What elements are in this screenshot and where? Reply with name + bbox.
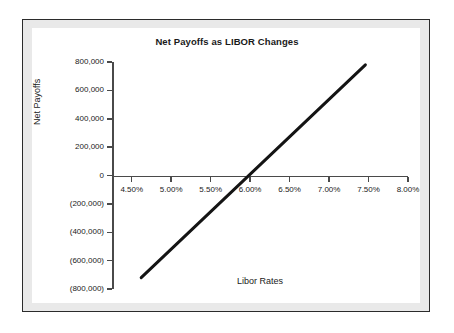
figure-frame: Net Payoffs as LIBOR Changes 800,000600,… [22, 19, 430, 312]
net-payoffs-line [141, 65, 365, 278]
data-series-layer [23, 20, 431, 313]
y-axis-title: Net Payoffs [32, 79, 42, 125]
x-axis-title: Libor Rates [112, 276, 408, 286]
chart-plot-area: Net Payoffs as LIBOR Changes 800,000600,… [23, 20, 431, 313]
